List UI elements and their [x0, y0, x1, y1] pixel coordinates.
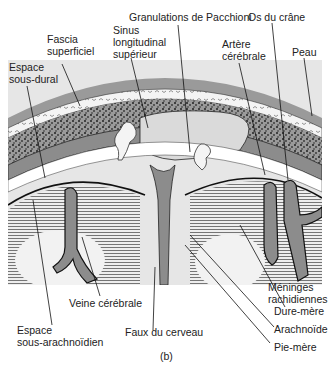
label-arachnoide: Arachnoïde: [274, 323, 328, 335]
label-espace-sd-line2: sous-dural: [9, 73, 58, 85]
label-veine: Veine cérébrale: [69, 297, 142, 309]
label-sinus-line2: longitudinal: [113, 36, 166, 48]
label-espace-sa-line1: Espace: [17, 324, 52, 336]
label-faux: Faux du cerveau: [125, 326, 203, 338]
label-os-du-crane: Os du crâne: [248, 11, 305, 23]
label-espace-sd-line1: Espace: [9, 61, 44, 73]
cross-section: [8, 60, 322, 290]
label-peau: Peau: [292, 46, 317, 58]
label-pie-mere: Pie-mère: [274, 341, 317, 353]
figure-caption: (b): [160, 350, 173, 362]
label-granulations: Granulations de Pacchioni: [129, 11, 252, 23]
label-sinus-line3: supérieur: [113, 48, 157, 60]
cerebral-artery-left: [264, 182, 278, 265]
label-sinus-line1: Sinus: [113, 24, 139, 36]
label-artere-line1: Artère: [222, 38, 251, 50]
label-meninges-line1: Méninges: [268, 281, 314, 293]
label-fascia-line2: superficiel: [47, 45, 94, 57]
label-dure-mere: Dure-mère: [274, 305, 324, 317]
label-fascia-line1: Fascia: [47, 33, 78, 45]
label-meninges-line2: rachidiennes: [268, 293, 328, 305]
label-artere-line2: cérébrale: [222, 50, 266, 62]
label-espace-sa-line2: sous-arachnoïdien: [17, 336, 103, 348]
